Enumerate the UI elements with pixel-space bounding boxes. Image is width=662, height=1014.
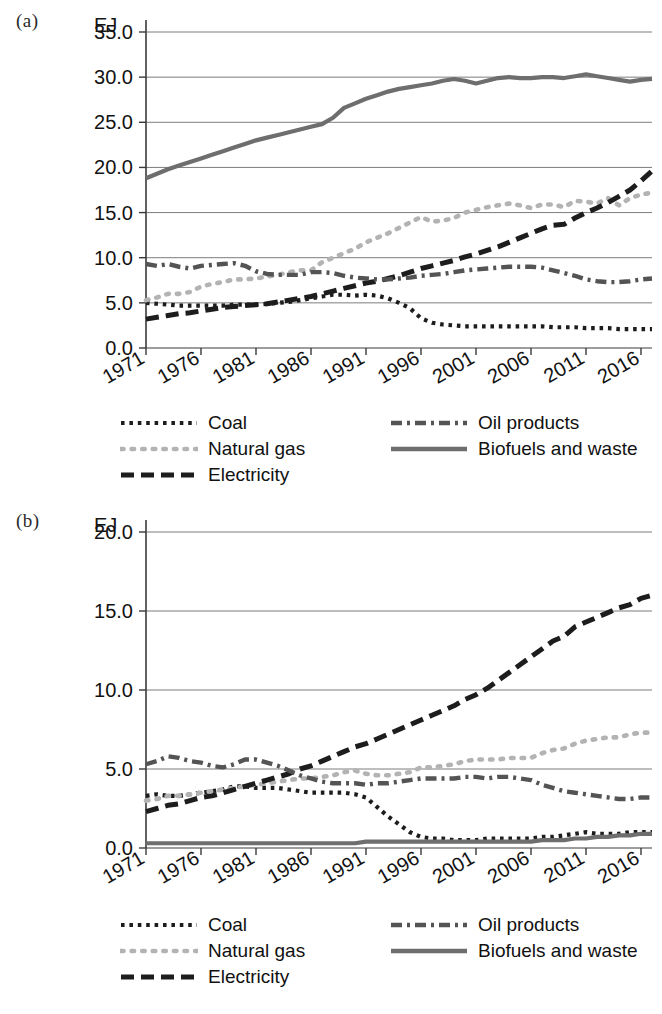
x-axis-tick-label: 2011 <box>540 846 588 887</box>
legend-label: Oil products <box>478 914 579 936</box>
y-axis-tick-label: 20.0 <box>94 156 133 178</box>
electricity-dashed-key <box>120 469 198 481</box>
electricity-dashed-key <box>120 971 198 983</box>
y-axis-tick-label: 5.0 <box>105 758 133 780</box>
natural-gas-dotted-key <box>120 945 198 957</box>
legend-label: Electricity <box>208 464 289 486</box>
x-axis-tick-label: 2001 <box>428 846 478 887</box>
legend-a: CoalNatural gasElectricityOil productsBi… <box>120 410 650 488</box>
panel-a: (a) EJ 0.05.010.015.020.025.030.035.0197… <box>0 0 662 500</box>
y-axis-tick-label: 35.0 <box>94 21 133 43</box>
legend-item-coal: Coal <box>120 914 380 936</box>
x-axis-tick-label: 1981 <box>208 846 258 887</box>
legend-label: Oil products <box>478 412 579 434</box>
legend-item-electricity: Electricity <box>120 966 380 988</box>
biofuels-solid-key <box>390 443 468 455</box>
x-axis-tick-label: 2006 <box>483 846 533 887</box>
series-line-oil-products <box>146 756 652 799</box>
x-axis-tick-label: 1991 <box>318 846 368 887</box>
x-axis-tick-label: 1986 <box>263 846 313 887</box>
y-axis-tick-label: 10.0 <box>94 247 133 269</box>
chart-a-svg: 0.05.010.015.020.025.030.035.01971197619… <box>0 0 662 400</box>
chart-b-svg: 0.05.010.015.020.01971197619811986199119… <box>0 500 662 900</box>
panel-a-plot: 0.05.010.015.020.025.030.035.01971197619… <box>0 0 662 400</box>
series-line-natural-gas <box>146 193 652 300</box>
legend-item-electricity: Electricity <box>120 464 380 486</box>
legend-label: Coal <box>208 412 247 434</box>
x-axis-tick-label: 2006 <box>483 346 533 387</box>
legend-label: Electricity <box>208 966 289 988</box>
series-line-biofuels-and-waste <box>146 74 652 178</box>
legend-label: Natural gas <box>208 940 305 962</box>
legend-item-oil-products: Oil products <box>390 914 650 936</box>
legend-b: CoalNatural gasElectricityOil productsBi… <box>120 912 650 990</box>
series-line-electricity <box>146 171 652 319</box>
x-axis-tick-label: 2001 <box>428 346 478 387</box>
x-axis-tick-label: 1996 <box>373 346 423 387</box>
x-axis-tick-label: 1976 <box>153 346 203 387</box>
legend-item-biofuels-and-waste: Biofuels and waste <box>390 940 650 962</box>
legend-item-oil-products: Oil products <box>390 412 650 434</box>
x-axis-tick-label: 2011 <box>540 346 588 387</box>
series-line-coal <box>146 295 652 329</box>
legend-label: Biofuels and waste <box>478 438 638 460</box>
natural-gas-dotted-key <box>120 443 198 455</box>
y-axis-tick-label: 15.0 <box>94 202 133 224</box>
x-axis-tick-label: 1991 <box>318 346 368 387</box>
oil-products-dashdot-key <box>390 417 468 429</box>
series-line-oil-products <box>146 263 652 282</box>
y-axis-tick-label: 30.0 <box>94 66 133 88</box>
legend-item-natural-gas: Natural gas <box>120 438 380 460</box>
legend-item-biofuels-and-waste: Biofuels and waste <box>390 438 650 460</box>
legend-item-natural-gas: Natural gas <box>120 940 380 962</box>
series-line-electricity <box>146 595 652 811</box>
coal-dotted-key <box>120 417 198 429</box>
x-axis-tick-label: 1981 <box>208 346 258 387</box>
x-axis-tick-label: 2016 <box>593 346 643 387</box>
coal-dotted-key <box>120 919 198 931</box>
biofuels-solid-key <box>390 945 468 957</box>
oil-products-dashdot-key <box>390 919 468 931</box>
x-axis-tick-label: 1996 <box>373 846 423 887</box>
x-axis-tick-label: 2016 <box>593 846 643 887</box>
legend-label: Biofuels and waste <box>478 940 638 962</box>
y-axis-tick-label: 10.0 <box>94 679 133 701</box>
y-axis-tick-label: 5.0 <box>105 292 133 314</box>
legend-item-coal: Coal <box>120 412 380 434</box>
y-axis-tick-label: 15.0 <box>94 600 133 622</box>
y-axis-tick-label: 20.0 <box>94 521 133 543</box>
y-axis-tick-label: 25.0 <box>94 111 133 133</box>
legend-label: Natural gas <box>208 438 305 460</box>
panel-b: (b) EJ 0.05.010.015.020.0197119761981198… <box>0 500 662 1014</box>
x-axis-tick-label: 1976 <box>153 846 203 887</box>
panel-b-plot: 0.05.010.015.020.01971197619811986199119… <box>0 500 662 900</box>
x-axis-tick-label: 1986 <box>263 346 313 387</box>
legend-label: Coal <box>208 914 247 936</box>
